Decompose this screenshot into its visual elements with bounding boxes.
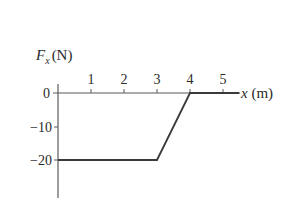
x-tick-label: 5 (220, 72, 227, 87)
y-tick-label: −10 (30, 120, 52, 135)
force-line (58, 93, 240, 160)
x-tick-label: 4 (187, 72, 194, 87)
x-tick-label: 1 (88, 72, 95, 87)
x-tick-label: 2 (121, 72, 128, 87)
y-tick-label: 0 (43, 86, 50, 101)
force-position-chart: 1 2 3 4 5 0 −10 −20 Fx(N) x (m) (0, 0, 293, 212)
x-tick-label: 3 (154, 72, 161, 87)
y-axis-label: Fx(N) (35, 47, 72, 66)
x-axis-label: x (m) (240, 85, 273, 102)
y-tick-label: −20 (30, 153, 52, 168)
